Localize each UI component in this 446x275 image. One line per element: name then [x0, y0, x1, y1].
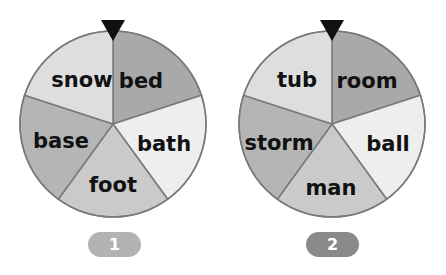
- segment-label: foot: [89, 173, 137, 197]
- spinner-wheel-2: room ball man storm tub: [239, 20, 425, 217]
- segment-label: bath: [137, 132, 191, 156]
- segment-label: bed: [119, 69, 163, 93]
- segment-label: room: [336, 69, 397, 93]
- wheel-1-number-badge: 1: [88, 232, 141, 257]
- segment-label: tub: [277, 68, 317, 92]
- segment-label: snow: [51, 68, 112, 92]
- segment-label: storm: [244, 131, 313, 155]
- segment-label: ball: [366, 132, 410, 156]
- spinner-wheel-1: bed bath foot base snow: [20, 20, 206, 217]
- segment-label: man: [305, 176, 356, 200]
- wheel-2-number-badge: 2: [306, 232, 359, 257]
- spinner-wheels: bed bath foot base snow room ball man st…: [0, 0, 446, 275]
- segment-label: base: [33, 129, 89, 153]
